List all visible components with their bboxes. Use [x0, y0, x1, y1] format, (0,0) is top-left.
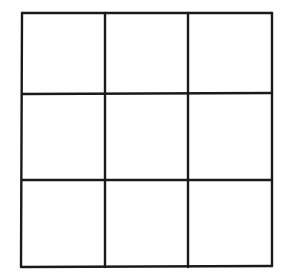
grid-horizontal-line-1: [22, 93, 272, 94]
grid-bottom-border: [22, 266, 272, 267]
three-by-three-grid: [0, 0, 284, 276]
grid-left-border: [21, 13, 22, 267]
